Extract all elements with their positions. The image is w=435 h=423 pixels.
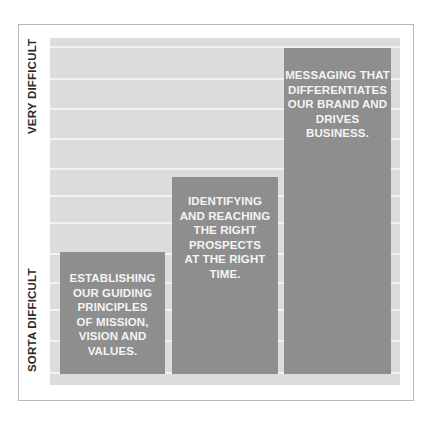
bar-reaching-prospects: IDENTIFYING AND REACHING THE RIGHT PROSP… (172, 177, 278, 374)
bar-text-line: THE RIGHT (172, 223, 278, 238)
bar-text-line: VISION AND (60, 329, 165, 344)
bar-text-line: PRINCIPLES (60, 300, 165, 315)
bar-text-line: IDENTIFYING (172, 194, 278, 209)
bar-text-line: TIME. (172, 267, 278, 282)
bar-text-line: OUR BRAND AND (284, 97, 391, 112)
bar-text-line: AND REACHING (172, 209, 278, 224)
bar-text-line: OUR GUIDING (60, 286, 165, 301)
bar-brand-messaging: MESSAGING THAT DIFFERENTIATES OUR BRAND … (284, 48, 391, 374)
bar-text-line: VALUES. (60, 344, 165, 359)
bar-text-line: DIFFERENTIATES (284, 83, 391, 98)
bar-text-line: PROSPECTS (172, 238, 278, 253)
axis-label-sorta-difficult: SORTA DIFFICULT (26, 268, 38, 372)
bar-text-line: AT THE RIGHT (172, 252, 278, 267)
bar-text-line: OF MISSION, (60, 315, 165, 330)
bar-text-line: MESSAGING THAT (284, 68, 391, 83)
bar-text-line: DRIVES BUSINESS. (284, 112, 391, 141)
axis-label-very-difficult: VERY DIFFICULT (26, 39, 38, 134)
bar-text-line: ESTABLISHING (60, 271, 165, 286)
bar-guiding-principles: ESTABLISHING OUR GUIDING PRINCIPLES OF M… (60, 252, 165, 374)
